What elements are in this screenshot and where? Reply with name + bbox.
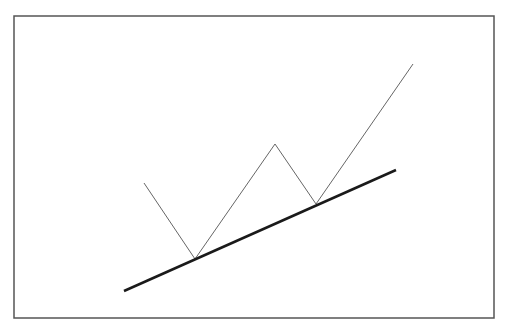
diagram-frame	[14, 16, 494, 318]
clipped-caption	[14, 322, 494, 331]
support-trendline	[124, 170, 396, 291]
trendline-diagram	[0, 0, 506, 331]
price-zigzag-line	[144, 64, 413, 259]
